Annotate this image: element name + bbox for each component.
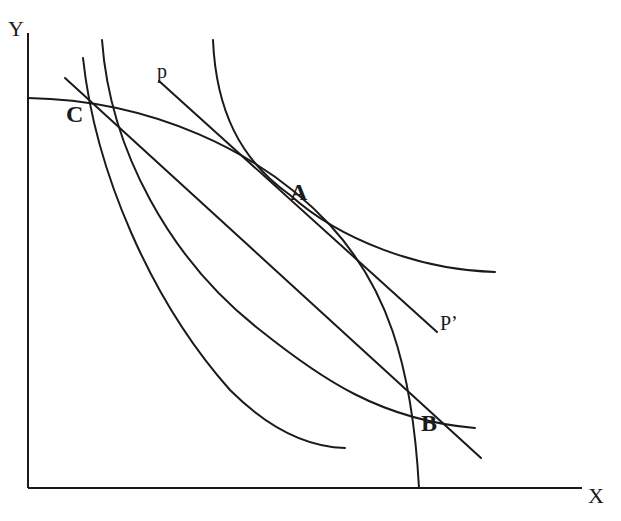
diagram-canvas: Y X C A B p P’ bbox=[0, 0, 621, 521]
price-line-p bbox=[159, 81, 437, 332]
point-b-label: B bbox=[421, 410, 437, 436]
production-possibility-frontier bbox=[28, 98, 419, 488]
point-a-label: A bbox=[290, 179, 308, 205]
y-axis-label: Y bbox=[8, 16, 24, 41]
trade-line-cb bbox=[65, 78, 481, 458]
economics-diagram: Y X C A B p P’ bbox=[0, 0, 621, 521]
indifference-curve-2 bbox=[102, 40, 475, 428]
indifference-curve-3 bbox=[213, 40, 495, 272]
point-c-label: C bbox=[66, 101, 83, 127]
x-axis-label: X bbox=[588, 483, 604, 508]
indifference-curve-1 bbox=[83, 58, 345, 448]
price-line-end-label: P’ bbox=[440, 312, 458, 334]
price-line-start-label: p bbox=[157, 60, 167, 83]
